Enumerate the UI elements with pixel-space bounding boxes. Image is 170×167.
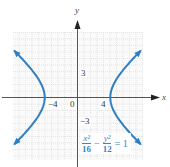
fraction-x: x² 16	[82, 133, 91, 154]
tick-label-y-3: 3	[80, 69, 87, 78]
x-axis-arrow-icon	[151, 95, 160, 101]
tick-label-x-neg4: −4	[47, 100, 59, 109]
minus-sign: −	[94, 138, 100, 149]
tick-label-origin: 0	[69, 100, 76, 109]
fraction-y: y² 12	[103, 133, 112, 154]
tick-label-y-neg3: −3	[79, 117, 91, 126]
equation-label: x² 16 − y² 12 = 1	[80, 133, 131, 154]
y-numerator: y²	[103, 133, 112, 144]
y-axis-arrow-icon	[75, 20, 81, 29]
x-numerator: x²	[82, 133, 91, 144]
tick-label-x-4: 4	[100, 100, 107, 109]
x-denominator: 16	[82, 144, 91, 154]
equals-one: = 1	[115, 138, 128, 149]
y-axis-label: y	[75, 6, 79, 15]
x-axis-label: x	[162, 93, 166, 102]
y-denominator: 12	[103, 144, 112, 154]
